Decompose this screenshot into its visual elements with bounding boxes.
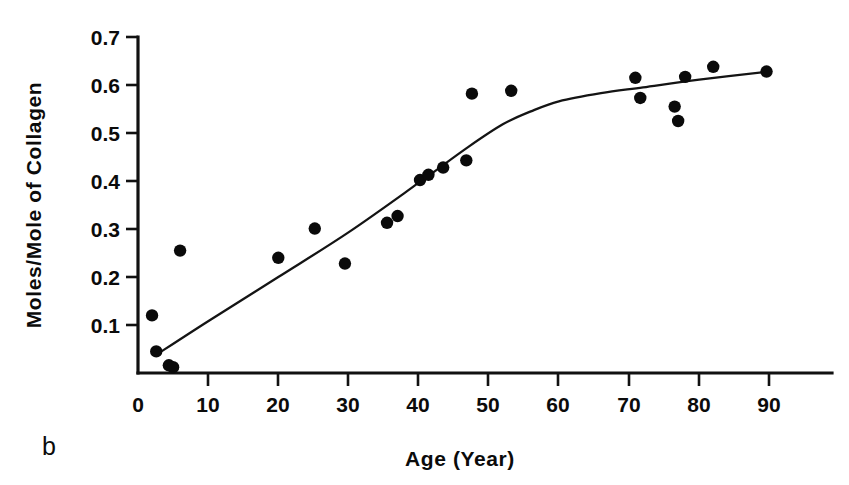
data-point [466, 87, 478, 99]
data-point [272, 252, 284, 264]
data-point [391, 210, 403, 222]
scatter-plot: 0.7 0.6 0.5 0.4 0.3 0.2 0.1 0 10 20 30 [0, 0, 849, 485]
data-point-group [146, 61, 773, 374]
data-point [381, 217, 393, 229]
data-point [460, 154, 472, 166]
data-point [146, 309, 158, 321]
data-point [760, 65, 772, 77]
figure-panel-b: 0.7 0.6 0.5 0.4 0.3 0.2 0.1 0 10 20 30 [0, 0, 849, 485]
x-axis-title: Age (Year) [405, 447, 515, 470]
y-tick-label: 0.2 [91, 266, 120, 289]
y-tick-label: 0.1 [91, 314, 121, 337]
data-point [629, 72, 641, 84]
x-tick-label: 90 [757, 393, 780, 416]
x-tick-label: 0 [132, 393, 144, 416]
y-axis-title: Moles/Mole of Collagen [22, 82, 45, 329]
fitted-trend-curve [156, 72, 770, 356]
data-point [672, 115, 684, 127]
y-tick-label: 0.5 [91, 122, 121, 145]
data-point [668, 100, 680, 112]
data-point [167, 361, 179, 373]
x-tick-marks [208, 373, 769, 386]
data-point [679, 71, 691, 83]
x-tick-label: 40 [406, 393, 429, 416]
data-point [505, 85, 517, 97]
x-tick-label: 10 [196, 393, 219, 416]
x-tick-label: 60 [546, 393, 569, 416]
y-tick-marks [126, 37, 138, 325]
x-tick-label: 20 [266, 393, 289, 416]
data-point [422, 169, 434, 181]
x-tick-label: 50 [476, 393, 499, 416]
y-tick-label: 0.3 [91, 218, 120, 241]
data-point [634, 92, 646, 104]
data-point [150, 345, 162, 357]
data-point [174, 244, 186, 256]
panel-label: b [42, 432, 56, 460]
x-tick-label: 80 [687, 393, 710, 416]
x-tick-label: 30 [336, 393, 359, 416]
data-point [707, 61, 719, 73]
y-tick-label: 0.4 [91, 170, 121, 193]
data-point [339, 257, 351, 269]
x-tick-label: 70 [617, 393, 640, 416]
y-tick-label: 0.7 [91, 26, 120, 49]
y-tick-labels: 0.7 0.6 0.5 0.4 0.3 0.2 0.1 [91, 26, 121, 337]
x-tick-labels: 0 10 20 30 40 50 60 70 80 90 [132, 393, 781, 416]
data-point [309, 222, 321, 234]
y-tick-label: 0.6 [91, 74, 120, 97]
data-point [437, 161, 449, 173]
